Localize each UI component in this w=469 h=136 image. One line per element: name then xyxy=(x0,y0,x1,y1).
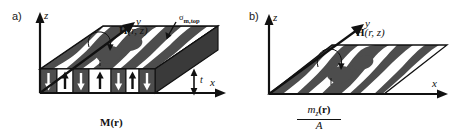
magnetization-label-args: (r) xyxy=(110,116,122,128)
field-label-a-bold: H xyxy=(119,24,128,36)
field-label-b-args: (r, z) xyxy=(365,26,385,38)
areal-moment-fraction-b: mz(r) A xyxy=(297,104,341,132)
fraction-numerator-args: (r) xyxy=(318,103,330,115)
axis-arrowhead-icon xyxy=(215,89,226,98)
x-axis-label-a: x xyxy=(210,76,215,88)
z-axis-b xyxy=(265,14,274,94)
panel-b-graphic xyxy=(235,0,469,136)
thickness-label-a: t xyxy=(200,74,203,85)
field-label-a: H(r, z) xyxy=(119,24,148,36)
fraction-denominator: A xyxy=(297,120,341,132)
z-axis-label-b: z xyxy=(273,11,277,23)
field-label-b: H(r, z) xyxy=(356,26,385,38)
axis-arrowhead-icon xyxy=(437,90,448,99)
surface-charge-label-a: σm,top xyxy=(179,12,200,24)
field-label-b-bold: H xyxy=(356,26,365,38)
magnetization-label-bold: M xyxy=(100,116,110,128)
fraction-numerator: mz(r) xyxy=(297,104,341,118)
panel-b: b) xyxy=(235,0,469,136)
panel-a: a) xyxy=(0,0,235,136)
thickness-double-arrow-icon xyxy=(191,69,198,96)
field-label-a-args: (r, z) xyxy=(128,24,148,36)
x-axis-label-b: x xyxy=(432,77,437,89)
z-axis-label-a: z xyxy=(44,9,48,21)
figure-container: a) xyxy=(0,0,469,136)
domain-pattern-sheet-b xyxy=(267,43,465,100)
magnetization-label-a: M(r) xyxy=(100,116,123,128)
surface-charge-subscript: m,top xyxy=(184,17,200,24)
